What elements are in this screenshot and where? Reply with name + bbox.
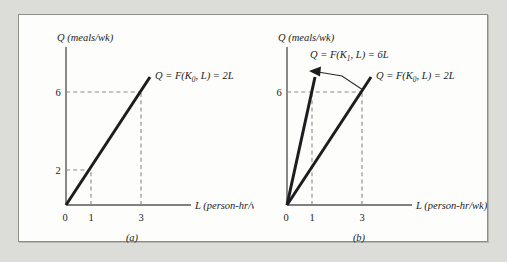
- origin-label-a: 0: [62, 212, 67, 223]
- origin-label-b: 0: [283, 212, 288, 223]
- x-axis-title-b: L (person-hr/wk): [415, 200, 487, 212]
- y-axis-title-b: Q (meals/wk): [278, 32, 335, 44]
- panel-caption-a: (a): [126, 232, 139, 243]
- x-tick-1-a: 1: [88, 212, 93, 223]
- shift-arrow-head-b: [309, 67, 321, 77]
- y-axis-title-a: Q (meals/wk): [57, 32, 114, 44]
- x-tick-1-b: 1: [309, 212, 314, 223]
- curve-label-k0-a: Q = F(K0, L) = 2L: [155, 70, 234, 84]
- curve-label-k0-b: Q = F(K0, L) = 2L: [376, 70, 455, 84]
- x-tick-3-b: 3: [359, 212, 364, 223]
- y-tick-2-a: 2: [55, 165, 60, 176]
- figure-root: Q (meals/wk) L (person-hr/wk) 0 1 3 2 6 …: [0, 0, 507, 262]
- x-axis-title-a: L (person-hr/wk): [194, 200, 254, 212]
- chart-panel-a: Q (meals/wk) L (person-hr/wk) 0 1 3 2 6 …: [19, 15, 254, 243]
- figure-panel: Q (meals/wk) L (person-hr/wk) 0 1 3 2 6 …: [18, 14, 488, 242]
- curve-label-k1-b: Q = F(K1, L) = 6L: [310, 49, 389, 63]
- y-tick-6-a: 6: [55, 87, 60, 98]
- panel-caption-b: (b): [353, 232, 366, 243]
- production-function-k0-a: [66, 77, 150, 205]
- y-tick-6-b: 6: [276, 87, 281, 98]
- chart-panel-b: Q (meals/wk) L (person-hr/wk) 0 1 3 6 Q …: [247, 15, 487, 243]
- shift-arrow-line-b: [318, 72, 363, 90]
- x-tick-3-a: 3: [138, 212, 143, 223]
